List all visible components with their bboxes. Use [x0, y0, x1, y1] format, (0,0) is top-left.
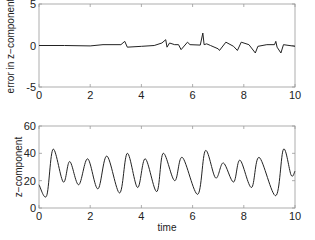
error-plot-ylabel: error in z−component [5, 0, 16, 93]
y-tick-label: 60 [24, 120, 36, 132]
error-plot: 0246810-505 error in z−component [5, 0, 301, 101]
x-tick-label: 0 [36, 210, 42, 222]
y-tick-label: 40 [24, 147, 36, 159]
z-plot-xlabel: time [158, 222, 177, 233]
x-tick-label: 8 [241, 210, 247, 222]
z-plot-ylabel: z−component [13, 137, 24, 198]
x-tick-label: 6 [190, 210, 196, 222]
z-component-plot: 02468100204060 z−component time [13, 120, 301, 233]
z-plot-frame [39, 126, 295, 208]
y-tick-label: 0 [30, 40, 36, 52]
x-tick-label: 4 [138, 210, 144, 222]
x-tick-label: 4 [138, 89, 144, 101]
y-tick-label: 0 [30, 202, 36, 214]
x-tick-label: 0 [36, 89, 42, 101]
y-tick-label: 20 [24, 175, 36, 187]
x-tick-label: 6 [190, 89, 196, 101]
x-tick-label: 10 [289, 89, 301, 101]
x-tick-label: 10 [289, 210, 301, 222]
x-tick-label: 8 [241, 89, 247, 101]
x-tick-label: 2 [87, 210, 93, 222]
y-tick-label: 5 [30, 0, 36, 10]
y-tick-label: -5 [26, 81, 36, 93]
x-tick-label: 2 [87, 89, 93, 101]
chart-figure: 0246810-505 error in z−component 0246810… [0, 0, 315, 240]
